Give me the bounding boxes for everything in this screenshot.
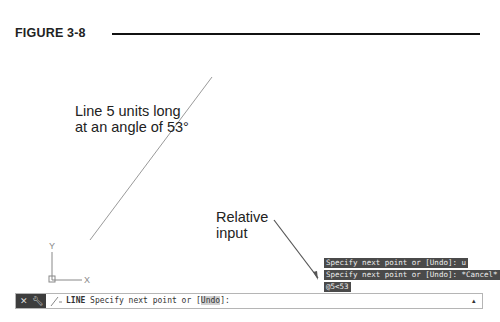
annotation-relative-input: Relative input (216, 209, 276, 241)
leader-arrow (274, 220, 318, 278)
command-history-line: Specify next point or [Undo]: *Cancel* (324, 270, 500, 280)
command-line[interactable]: ✕ 🔧︎ LINE Specify next point or [Undo]: … (15, 293, 483, 309)
command-history-line: Specify next point or [Undo]: u (324, 258, 468, 268)
ucs-x-label: X (84, 275, 90, 285)
recent-commands-button[interactable]: ▴ (469, 295, 479, 307)
prompt-text: Specify next point or [ (85, 296, 201, 305)
option-undo[interactable]: Undo (201, 296, 220, 305)
drawn-line (90, 77, 212, 240)
annotation-line-description: Line 5 units long at an angle of 53° (75, 103, 195, 135)
close-icon[interactable]: ✕ (18, 295, 30, 307)
prompt-end: ]: (220, 296, 230, 305)
ucs-y-label: Y (49, 241, 55, 251)
line-command-icon (49, 295, 63, 307)
command-prompt[interactable]: LINE Specify next point or [Undo]: (66, 294, 230, 308)
arrowhead-icon (313, 271, 318, 280)
ucs-icon (49, 252, 82, 282)
command-history-line: @5<53 (324, 282, 351, 292)
command-line-controls: ✕ 🔧︎ (16, 294, 46, 308)
command-name: LINE (66, 296, 85, 305)
wrench-icon[interactable]: 🔧︎ (31, 295, 43, 307)
